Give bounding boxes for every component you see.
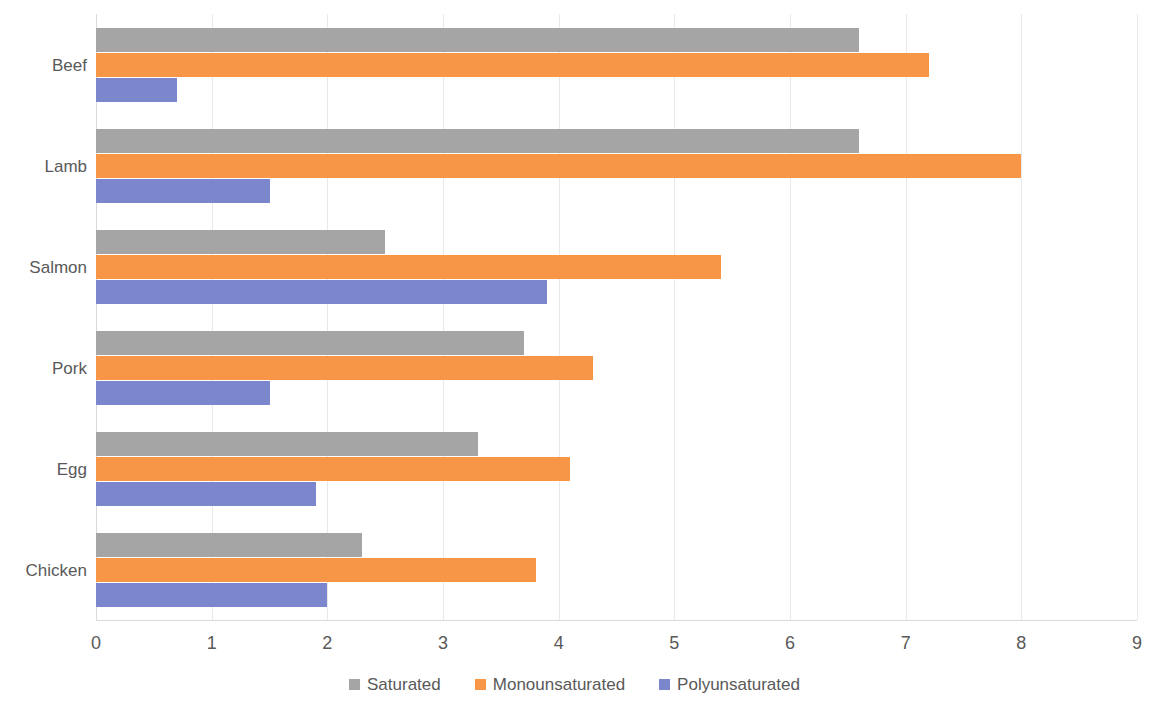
bar-row [96,255,1137,279]
x-tick-label-9: 9 [1132,634,1142,652]
gridline-9 [1137,14,1138,620]
bar-chart: BeefLambSalmonPorkEggChicken 0123456789 … [0,0,1149,708]
bar-row [96,356,1137,380]
legend-item-monounsaturated[interactable]: Monounsaturated [475,676,625,693]
bar-beef-polyunsaturated[interactable] [96,78,177,102]
gridline-1 [212,14,213,620]
bar-row [96,78,1137,102]
chart-legend: SaturatedMonounsaturatedPolyunsaturated [0,676,1149,693]
bar-lamb-polyunsaturated[interactable] [96,179,270,203]
bar-lamb-saturated[interactable] [96,129,859,153]
plot-area [96,14,1137,620]
bar-pork-monounsaturated[interactable] [96,356,593,380]
gridline-2 [327,14,328,620]
bar-salmon-saturated[interactable] [96,230,385,254]
bar-group-egg [96,432,1137,506]
legend-swatch-polyunsaturated-icon [659,679,670,690]
bar-pork-saturated[interactable] [96,331,524,355]
bar-beef-saturated[interactable] [96,28,859,52]
bar-group-salmon [96,230,1137,304]
x-tick-label-2: 2 [322,634,332,652]
bar-chicken-polyunsaturated[interactable] [96,583,327,607]
gridline-7 [906,14,907,620]
bar-row [96,432,1137,456]
x-tick-label-8: 8 [1016,634,1026,652]
x-tick-label-4: 4 [554,634,564,652]
x-tick-label-6: 6 [785,634,795,652]
gridline-4 [559,14,560,620]
x-tick-label-0: 0 [91,634,101,652]
legend-swatch-monounsaturated-icon [475,679,486,690]
bar-row [96,533,1137,557]
bar-row [96,28,1137,52]
category-label-pork: Pork [52,360,87,377]
bar-row [96,583,1137,607]
bar-row [96,179,1137,203]
legend-item-polyunsaturated[interactable]: Polyunsaturated [659,676,800,693]
bar-row [96,129,1137,153]
bar-group-beef [96,28,1137,102]
bar-salmon-polyunsaturated[interactable] [96,280,547,304]
bar-egg-polyunsaturated[interactable] [96,482,316,506]
legend-label-polyunsaturated: Polyunsaturated [677,676,800,693]
gridline-6 [790,14,791,620]
x-axis-tick-labels: 0123456789 [0,634,1149,662]
bar-beef-monounsaturated[interactable] [96,53,929,77]
bar-group-chicken [96,533,1137,607]
bar-chicken-monounsaturated[interactable] [96,558,536,582]
legend-swatch-saturated-icon [349,679,360,690]
bar-row [96,558,1137,582]
bar-row [96,457,1137,481]
legend-label-saturated: Saturated [367,676,441,693]
category-label-lamb: Lamb [44,158,87,175]
category-label-egg: Egg [57,461,87,478]
bar-salmon-monounsaturated[interactable] [96,255,721,279]
bar-group-pork [96,331,1137,405]
x-tick-label-5: 5 [669,634,679,652]
bar-lamb-monounsaturated[interactable] [96,154,1021,178]
bar-row [96,154,1137,178]
bar-row [96,331,1137,355]
bar-pork-polyunsaturated[interactable] [96,381,270,405]
bar-egg-saturated[interactable] [96,432,478,456]
category-label-beef: Beef [52,57,87,74]
bar-egg-monounsaturated[interactable] [96,457,570,481]
category-label-salmon: Salmon [29,259,87,276]
bar-row [96,230,1137,254]
bar-chicken-saturated[interactable] [96,533,362,557]
bar-row [96,280,1137,304]
category-label-chicken: Chicken [26,562,87,579]
gridline-8 [1021,14,1022,620]
bar-row [96,381,1137,405]
gridline-3 [443,14,444,620]
legend-item-saturated[interactable]: Saturated [349,676,441,693]
x-tick-label-3: 3 [438,634,448,652]
gridline-0 [96,14,97,620]
x-axis-line [96,620,1137,621]
bar-row [96,482,1137,506]
legend-label-monounsaturated: Monounsaturated [493,676,625,693]
bar-group-lamb [96,129,1137,203]
gridline-5 [674,14,675,620]
bar-row [96,53,1137,77]
x-tick-label-7: 7 [901,634,911,652]
x-tick-label-1: 1 [207,634,217,652]
